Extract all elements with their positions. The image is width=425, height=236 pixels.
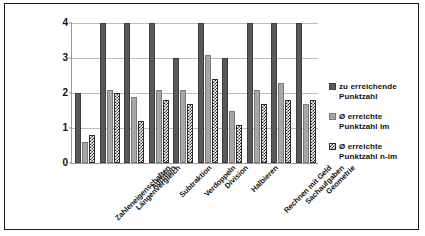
bar bbox=[296, 23, 302, 163]
bar-group bbox=[220, 23, 245, 163]
legend-swatch-icon bbox=[329, 113, 336, 120]
bar bbox=[131, 97, 137, 164]
bar bbox=[310, 100, 316, 163]
y-tick-label: 2 bbox=[62, 88, 68, 98]
chart-frame: 01234 ZahleneigenschaftenLängenvergleich… bbox=[4, 3, 419, 230]
y-tick-label: 3 bbox=[62, 53, 68, 63]
bar bbox=[222, 58, 228, 163]
x-axis-labels: ZahleneigenschaftenLängenvergleichAdditi… bbox=[72, 164, 318, 236]
y-tick-mark bbox=[69, 128, 72, 129]
bar bbox=[247, 23, 253, 163]
bar bbox=[75, 93, 81, 163]
bar bbox=[261, 104, 267, 164]
y-tick-label: 1 bbox=[62, 123, 68, 133]
plot-area: 01234 bbox=[57, 18, 317, 168]
legend-label: Ø erreichtePunktzahl im bbox=[339, 112, 390, 132]
bar bbox=[278, 83, 284, 164]
bar bbox=[254, 90, 260, 164]
legend-item: Ø erreichtePunktzahl im bbox=[329, 112, 425, 132]
legend-swatch-icon bbox=[329, 83, 336, 90]
bar bbox=[303, 104, 309, 164]
bar bbox=[285, 100, 291, 163]
y-tick-label: 0 bbox=[62, 158, 68, 168]
bar bbox=[114, 93, 120, 163]
bar bbox=[124, 23, 130, 163]
bar-group bbox=[245, 23, 270, 163]
axes: 01234 bbox=[71, 23, 318, 164]
bar bbox=[107, 90, 113, 164]
chart-screenshot: 01234 ZahleneigenschaftenLängenvergleich… bbox=[0, 0, 425, 236]
bar-group bbox=[269, 23, 294, 163]
bar bbox=[173, 58, 179, 163]
bar-group bbox=[98, 23, 123, 163]
legend-swatch-icon bbox=[329, 143, 336, 150]
bar bbox=[82, 142, 88, 163]
chart-legend: zu erreichendePunktzahlØ erreichtePunktz… bbox=[329, 82, 425, 172]
y-tick-label: 4 bbox=[62, 18, 68, 28]
y-tick-mark bbox=[69, 23, 72, 24]
bar-groups bbox=[73, 23, 318, 163]
bar bbox=[229, 111, 235, 164]
legend-label: Ø erreichtePunktzahl n-im bbox=[339, 142, 397, 162]
legend-item: zu erreichendePunktzahl bbox=[329, 82, 425, 102]
bar bbox=[100, 23, 106, 163]
bar bbox=[271, 23, 277, 163]
bar-group bbox=[196, 23, 221, 163]
bar bbox=[198, 23, 204, 163]
legend-item: Ø erreichtePunktzahl n-im bbox=[329, 142, 425, 162]
bar bbox=[149, 23, 155, 163]
bar bbox=[138, 121, 144, 163]
legend-label: zu erreichendePunktzahl bbox=[339, 82, 397, 102]
bar-group bbox=[122, 23, 147, 163]
bar bbox=[205, 55, 211, 164]
bar bbox=[180, 90, 186, 164]
bar bbox=[163, 100, 169, 163]
bar bbox=[236, 125, 242, 164]
bar-group bbox=[294, 23, 319, 163]
y-tick-mark bbox=[69, 58, 72, 59]
y-tick-mark bbox=[69, 93, 72, 94]
bar bbox=[187, 104, 193, 164]
bar-group bbox=[147, 23, 172, 163]
bar bbox=[89, 135, 95, 163]
x-axis-label: Halbieren bbox=[250, 164, 279, 193]
bar-group bbox=[171, 23, 196, 163]
bar bbox=[212, 79, 218, 163]
bar bbox=[156, 90, 162, 164]
bar-group bbox=[73, 23, 98, 163]
